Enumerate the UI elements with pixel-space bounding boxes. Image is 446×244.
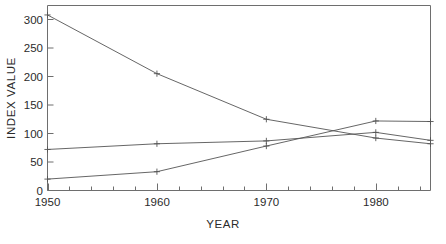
x-tick-label-1970: 1970 [254, 196, 280, 208]
data-point-marker [44, 12, 50, 18]
series-line [48, 132, 431, 149]
data-point-marker [373, 135, 379, 141]
y-tick-label-50: 50 [30, 156, 43, 168]
data-point-marker [263, 143, 269, 149]
data-point-marker [154, 141, 160, 147]
data-point-marker [263, 116, 269, 122]
y-tick-label-200: 200 [24, 71, 43, 83]
series-line [48, 15, 431, 144]
y-tick-label-100: 100 [24, 128, 43, 140]
series-rising-series [44, 118, 433, 182]
y-tick-label-0: 0 [37, 185, 43, 197]
data-point-marker [44, 176, 50, 182]
y-axis-title: INDEX VALUE [5, 57, 17, 139]
data-point-marker [373, 129, 379, 135]
x-axis-tick-labels: 1950 1960 1970 1980 [35, 196, 389, 208]
line-chart-plot: 300 250 200 150 100 50 0 1950 1960 1970 … [0, 0, 446, 244]
series-line [48, 121, 431, 179]
y-tick-label-250: 250 [24, 42, 43, 54]
x-axis-ticks [49, 184, 421, 191]
x-tick-label-1980: 1980 [363, 196, 389, 208]
x-axis-title: YEAR [206, 218, 240, 230]
data-point-marker [427, 118, 433, 124]
series-flat-series [44, 129, 433, 152]
data-point-marker [427, 137, 433, 143]
chart-container: 300 250 200 150 100 50 0 1950 1960 1970 … [0, 0, 446, 244]
y-tick-label-300: 300 [24, 14, 43, 26]
data-series-layer [44, 12, 433, 182]
data-point-marker [373, 118, 379, 124]
x-tick-label-1950: 1950 [35, 196, 61, 208]
data-point-marker [154, 71, 160, 77]
series-declining-series [44, 12, 433, 147]
x-tick-label-1960: 1960 [144, 196, 170, 208]
plot-frame [48, 6, 431, 191]
data-point-marker [44, 146, 50, 152]
data-point-marker [154, 169, 160, 175]
y-axis-tick-labels: 300 250 200 150 100 50 0 [24, 14, 43, 197]
y-tick-label-150: 150 [24, 99, 43, 111]
y-axis-ticks [48, 20, 54, 191]
